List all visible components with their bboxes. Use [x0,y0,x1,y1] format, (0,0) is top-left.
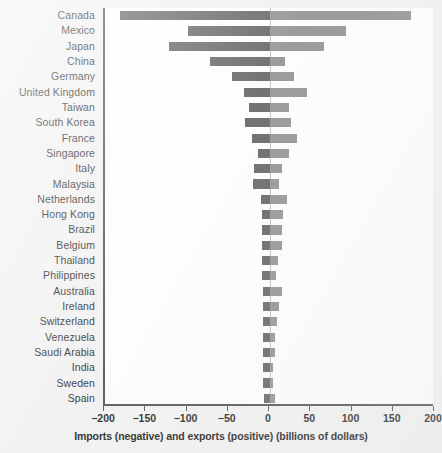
export-bar [270,394,275,403]
import-bar [262,271,270,280]
export-bar [270,42,324,51]
bar-row [105,11,433,20]
country-label: Venezuela [45,332,95,343]
export-bar [270,149,289,158]
country-label: South Korea [36,117,95,128]
bar-row [105,256,433,265]
import-bar [263,333,270,342]
import-bar [169,42,270,51]
import-bar [254,164,271,173]
bar-row [105,271,433,280]
export-bar [270,72,294,81]
country-label: Canada [58,10,95,21]
export-bar [270,302,279,311]
bar-row [105,72,433,81]
export-bar [270,348,275,357]
import-bar [253,179,270,188]
country-label: France [62,133,95,144]
import-bar [262,225,270,234]
bar-row [105,103,433,112]
country-label: China [67,56,95,67]
country-label: Germany [51,71,95,82]
export-bar [270,179,279,188]
x-axis-tick [392,406,393,411]
x-axis-tick [351,406,352,411]
bar-row [105,333,433,342]
import-bar [120,11,270,20]
country-label: Australia [53,286,95,297]
import-bar [262,210,270,219]
country-label: Brazil [68,224,95,235]
bar-row [105,164,433,173]
country-label-axis: CanadaMexicoJapanChinaGermanyUnited King… [0,8,99,406]
bar-row [105,348,433,357]
x-axis-tick-label: −100 [174,412,198,424]
x-axis: −200−150−100−50050100150200 [103,406,433,430]
import-bar [263,287,270,296]
country-label: Ireland [62,301,95,312]
trade-balance-figure: CanadaMexicoJapanChinaGermanyUnited King… [0,0,442,453]
import-bar [244,88,270,97]
bar-row [105,195,433,204]
country-label: Japan [66,41,95,52]
country-label: Thailand [54,255,95,266]
import-bar [263,378,270,387]
bar-row [105,378,433,387]
country-label: Hong Kong [42,209,95,220]
x-axis-tick-label: 100 [342,412,360,424]
import-bar [188,26,270,35]
export-bar [270,11,411,20]
export-bar [270,118,291,127]
country-label: United Kingdom [19,87,95,98]
import-bar [210,57,270,66]
country-label: Belgium [56,240,95,251]
import-bar [263,363,270,372]
country-label: Saudi Arabia [34,347,95,358]
x-axis-tick-label: 50 [303,412,315,424]
export-bar [270,57,285,66]
country-label: Sweden [56,378,95,389]
bar-row [105,210,433,219]
bar-row [105,179,433,188]
export-bar [270,26,346,35]
bar-row [105,118,433,127]
bar-row [105,26,433,35]
x-axis-tick-label: 150 [383,412,401,424]
import-bar [245,118,270,127]
country-label: Philippines [43,270,95,281]
country-label: Singapore [46,148,95,159]
bar-row [105,42,433,51]
bar-row [105,57,433,66]
bar-row [105,241,433,250]
x-axis-tick [309,406,310,411]
export-bar [270,225,282,234]
country-label: Netherlands [37,194,95,205]
x-axis-tick [433,406,434,411]
export-bar [270,317,277,326]
bar-row [105,134,433,143]
x-axis-tick [186,406,187,411]
x-axis-tick [227,406,228,411]
export-bar [270,103,289,112]
import-bar [258,149,270,158]
country-label: Mexico [61,25,95,36]
import-bar [263,317,270,326]
bar-row [105,394,433,403]
export-bar [270,164,282,173]
country-label: Italy [75,163,95,174]
x-axis-tick-label: 0 [265,412,271,424]
export-bar [270,241,282,250]
bar-row [105,317,433,326]
country-label: India [72,362,95,373]
x-axis-tick [103,406,104,411]
export-bar [270,210,283,219]
export-bar [270,378,273,387]
import-bar [261,195,270,204]
plot-area [103,8,433,406]
country-label: Spain [68,393,95,404]
import-bar [232,72,270,81]
country-label: Switzerland [40,316,95,327]
bar-row [105,225,433,234]
export-bar [270,256,278,265]
export-bar [270,333,275,342]
